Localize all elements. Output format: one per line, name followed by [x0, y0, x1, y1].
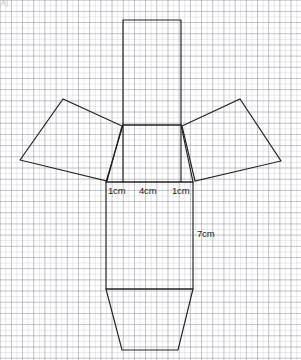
prism-net-drawing: [0, 0, 301, 360]
top-flap-rectangle: [123, 20, 181, 125]
dimension-label-height: 7cm: [197, 228, 214, 239]
dimension-label-width-middle: 4cm: [139, 185, 156, 196]
dimension-label-width-left: 1cm: [108, 185, 125, 196]
graph-paper-canvas: A) 1cm 4cm 1cm 7cm: [0, 0, 301, 360]
bottom-flap-trapezoid: [106, 289, 193, 350]
dimension-label-width-right: 1cm: [172, 185, 189, 196]
main-body-rectangle: [106, 182, 193, 289]
neck-trapezoid: [106, 125, 193, 182]
right-wing-panel: [182, 99, 281, 181]
left-wing-panel: [20, 99, 122, 181]
